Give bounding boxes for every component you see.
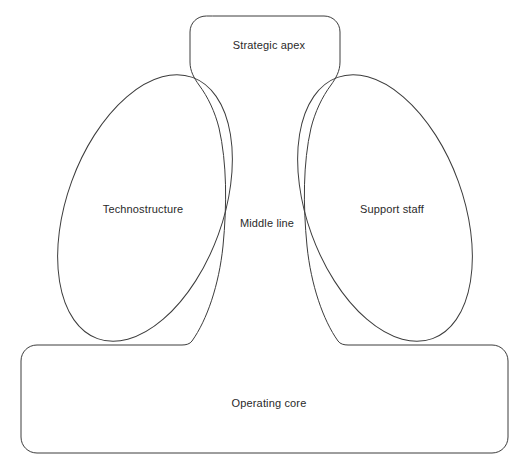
label-middle-line: Middle line [240,217,294,229]
label-technostructure: Technostructure [103,203,184,215]
mintzberg-organization-diagram: Strategic apex Technostructure Middle li… [0,0,528,467]
organization-silhouette-outline [21,16,508,453]
label-operating-core: Operating core [232,397,307,409]
label-support-staff: Support staff [360,203,424,215]
label-strategic-apex: Strategic apex [233,39,305,51]
